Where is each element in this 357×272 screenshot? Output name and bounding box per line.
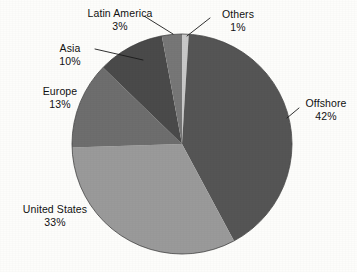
slice-label-united-states: United States 33% xyxy=(8,203,102,228)
slice-label-asia: Asia 10% xyxy=(47,42,93,67)
slice-label-asia-name: Asia xyxy=(60,42,81,54)
slice-label-offshore-name: Offshore xyxy=(306,97,347,109)
pie-chart: Latin America 3% Others 1% Asia 10% Euro… xyxy=(0,0,357,272)
slice-label-europe-value: 13% xyxy=(32,98,88,111)
slice-label-latin-america: Latin America 3% xyxy=(78,7,162,32)
slice-label-latin-america-name: Latin America xyxy=(88,7,153,19)
slice-label-europe-name: Europe xyxy=(43,85,77,97)
slice-label-offshore: Offshore 42% xyxy=(297,97,355,122)
slice-label-europe: Europe 13% xyxy=(32,85,88,110)
slice-label-offshore-value: 42% xyxy=(297,110,355,123)
pie-chart-canvas xyxy=(0,0,357,272)
leader-line-others xyxy=(187,18,210,36)
slice-label-others-name: Others xyxy=(222,8,254,20)
slice-label-others-value: 1% xyxy=(213,21,263,34)
slice-label-united-states-name: United States xyxy=(23,203,87,215)
slice-label-united-states-value: 33% xyxy=(8,216,102,229)
slice-label-asia-value: 10% xyxy=(47,55,93,68)
pie-slices-group xyxy=(72,34,292,254)
slice-label-latin-america-value: 3% xyxy=(78,20,162,33)
slice-label-others: Others 1% xyxy=(213,8,263,33)
